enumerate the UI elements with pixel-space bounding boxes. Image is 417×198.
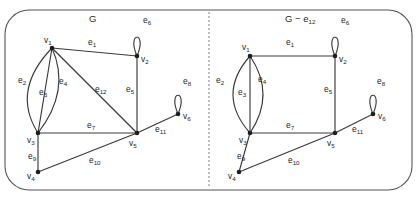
- left-vertex-v2: [135, 54, 140, 59]
- left-vertex-label-v4: v4: [27, 171, 35, 182]
- left-edge-e6: [134, 37, 140, 56]
- right-vertex-v3: [248, 131, 253, 136]
- left-edge-label-e8: e8: [183, 76, 192, 87]
- right-edge-label-e4: e4: [258, 74, 267, 85]
- right-edge-label-e2: e2: [216, 75, 225, 86]
- left-vertex-v4: [36, 170, 41, 175]
- left-panel-title: G: [89, 13, 96, 24]
- right-edge-label-e6: e6: [341, 15, 350, 26]
- right-vertex-label-v2: v2: [339, 54, 347, 65]
- graph-canvas: e1e2e3e4e5e6e7e8e9e10e11e12v1v2v3v4v5v6e…: [0, 0, 417, 198]
- left-vertex-v6: [176, 112, 181, 117]
- left-edge-label-e11: e11: [155, 124, 167, 135]
- left-vertex-label-v5: v5: [129, 138, 137, 149]
- right-vertex-v1: [248, 54, 253, 59]
- right-panel-title: G − e12: [285, 13, 316, 25]
- right-vertex-label-v4: v4: [228, 171, 236, 182]
- graph-figure: e1e2e3e4e5e6e7e8e9e10e11e12v1v2v3v4v5v6e…: [0, 0, 417, 198]
- left-edge-e8: [175, 95, 181, 114]
- left-edge-label-e2: e2: [18, 75, 27, 86]
- left-edge-label-e6: e6: [143, 15, 152, 26]
- left-edge-label-e5: e5: [126, 84, 135, 95]
- left-edge-label-e3: e3: [39, 87, 48, 98]
- right-edge-label-e10: e10: [288, 155, 300, 166]
- left-vertex-label-v1: v1: [44, 35, 52, 46]
- right-edge-e10: [239, 133, 335, 172]
- right-vertex-label-v6: v6: [378, 111, 386, 122]
- right-vertex-v6: [371, 112, 376, 117]
- left-vertex-label-v3: v3: [27, 135, 35, 146]
- left-edge-label-e12: e12: [95, 84, 107, 95]
- right-vertex-v4: [237, 170, 242, 175]
- left-edge-label-e9: e9: [28, 151, 37, 162]
- left-vertex-label-v6: v6: [183, 111, 191, 122]
- left-vertex-v3: [36, 131, 41, 136]
- right-edge-e6: [332, 37, 338, 56]
- left-edge-label-e1: e1: [88, 37, 97, 48]
- left-edge-label-e4: e4: [59, 76, 68, 87]
- right-vertex-label-v1: v1: [242, 42, 250, 53]
- left-edge-e1: [52, 48, 137, 56]
- right-vertex-label-v5: v5: [327, 138, 335, 149]
- right-edge-e8: [370, 95, 376, 114]
- right-edge-label-e3: e3: [238, 87, 247, 98]
- right-edge-label-e7: e7: [286, 120, 295, 131]
- left-edge-label-e7: e7: [87, 120, 96, 131]
- right-edge-label-e1: e1: [286, 37, 295, 48]
- left-edge-e10: [38, 133, 137, 172]
- left-vertex-label-v2: v2: [141, 54, 149, 65]
- right-vertex-v2: [333, 54, 338, 59]
- left-vertex-v1: [50, 46, 55, 51]
- right-edge-label-e8: e8: [377, 76, 386, 87]
- right-edge-label-e11: e11: [352, 124, 364, 135]
- right-vertex-label-v3: v3: [239, 135, 247, 146]
- right-edge-e4: [250, 56, 263, 133]
- left-vertex-v5: [135, 131, 140, 136]
- right-edge-label-e5: e5: [324, 84, 333, 95]
- left-edge-label-e10: e10: [89, 155, 101, 166]
- right-vertex-v5: [333, 131, 338, 136]
